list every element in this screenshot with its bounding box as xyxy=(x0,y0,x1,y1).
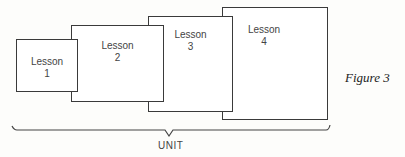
unit-label: UNIT xyxy=(158,140,183,151)
lesson-1-label: Lesson 1 xyxy=(17,56,77,80)
lesson-2-number: 2 xyxy=(72,52,163,64)
lesson-4-box: Lesson 4 xyxy=(222,7,328,120)
lesson-2-label: Lesson 2 xyxy=(72,40,163,64)
lesson-2-box: Lesson 2 xyxy=(71,25,164,102)
lesson-1-box: Lesson 1 xyxy=(16,39,78,92)
lesson-2-title: Lesson xyxy=(72,40,163,52)
figure-caption: Figure 3 xyxy=(345,70,390,86)
lesson-1-number: 1 xyxy=(17,68,77,80)
lesson-1-title: Lesson xyxy=(17,56,77,68)
